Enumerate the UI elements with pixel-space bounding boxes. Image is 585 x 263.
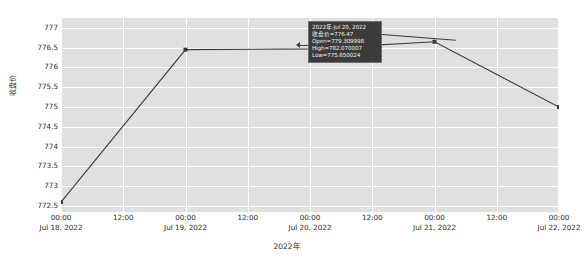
y-axis-tick-labels: 777776.5776775.5775774.5774773.5773772.5: [3, 18, 58, 212]
data-point-tooltip: 2022年-Jul 20, 2022收盘价=776.47Open=779.309…: [308, 21, 382, 63]
series-line: [61, 42, 559, 202]
tooltip-value: 收盘价=776.47: [312, 31, 378, 38]
x-axis-tick-labels: 00:00Jul 18, 202212:0000:00Jul 19, 20221…: [61, 213, 559, 241]
y-axis-tick: 776.5: [6, 44, 58, 52]
x-axis-tick-date: Jul 22, 2022: [514, 223, 585, 233]
data-point-marker[interactable]: [433, 40, 437, 44]
y-axis-tick: 773: [6, 182, 58, 190]
x-axis-tick-date: Jul 18, 2022: [16, 223, 106, 233]
data-point-marker[interactable]: [557, 105, 559, 109]
tooltip-title: 2022年-Jul 20, 2022: [312, 24, 378, 31]
x-axis-tick-date: Jul 20, 2022: [265, 223, 355, 233]
tooltip-value: Open=779.309998: [312, 38, 378, 45]
data-point-marker[interactable]: [184, 48, 188, 52]
tooltip-value: Low=775.650024: [312, 52, 378, 59]
y-axis-tick: 772.5: [6, 202, 58, 210]
x-axis-label: 2022年: [0, 240, 573, 251]
y-axis-tick: 774: [6, 143, 58, 151]
y-axis-tick: 775.5: [6, 83, 58, 91]
y-axis-tick: 776: [6, 63, 58, 71]
x-axis-tick-time: 00:00: [514, 213, 585, 223]
y-axis-tick: 773.5: [6, 162, 58, 170]
tooltip-leader-arrow-icon: [296, 42, 300, 48]
y-axis-tick: 774.5: [6, 123, 58, 131]
y-axis-tick: 777: [6, 24, 58, 32]
x-axis-tick: 00:00Jul 22, 2022: [514, 213, 585, 233]
x-axis-tick-date: Jul 21, 2022: [390, 223, 480, 233]
data-point-marker[interactable]: [61, 200, 63, 204]
y-axis-tick: 775: [6, 103, 58, 111]
x-axis-tick-date: Jul 19, 2022: [141, 223, 231, 233]
tooltip-value: High=782.070007: [312, 45, 378, 52]
